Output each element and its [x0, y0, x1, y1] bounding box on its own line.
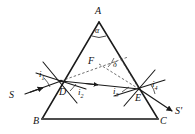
label-point-F: F — [88, 56, 94, 66]
label-apex-angle-alpha: α — [95, 27, 99, 35]
label-angle-i3: i3 — [113, 87, 119, 98]
label-angle-i3-subscript: 3 — [116, 92, 119, 98]
label-angle-i4: i4 — [152, 80, 158, 91]
label-exit-S-prime: S' — [175, 106, 182, 116]
label-angle-i2-subscript: 2 — [81, 93, 84, 99]
label-angle-i4-subscript: 4 — [155, 85, 158, 91]
label-source-S: S — [9, 90, 14, 100]
label-vertex-C: C — [160, 116, 167, 126]
label-point-E: E — [135, 93, 141, 103]
incident-ray-arrowhead — [30, 88, 43, 93]
prism-side-AC — [99, 22, 158, 119]
label-apex-A: A — [95, 6, 101, 16]
point-marker-D — [60, 80, 63, 83]
label-angle-i1-subscript: 1 — [42, 75, 45, 81]
label-vertex-B: B — [33, 116, 39, 126]
prism-triangle — [42, 22, 158, 119]
dashed-emergent-extension — [119, 56, 139, 89]
prism-diagram-svg — [0, 0, 195, 134]
label-point-D: D — [59, 87, 66, 97]
label-angle-i2: i2 — [78, 88, 84, 99]
label-deviation-angle-delta: δ — [113, 61, 117, 69]
prism-refraction-figure: A α B C D E F δ S S' i1 i2 i3 i4 — [0, 0, 195, 134]
label-angle-i1: i1 — [39, 70, 45, 81]
emergent-ray-ES — [139, 89, 172, 111]
internal-ray-arrowhead — [85, 84, 98, 85]
apex-angle-arc — [92, 36, 106, 38]
point-marker-E — [138, 88, 141, 91]
